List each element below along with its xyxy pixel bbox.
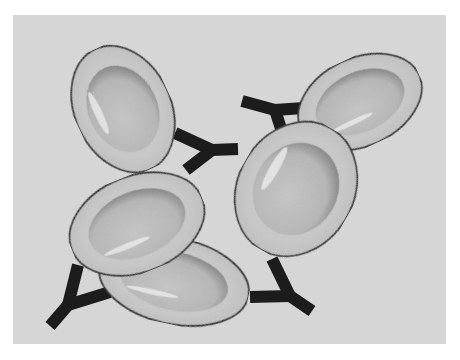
agglutination-illustration (0, 0, 460, 360)
antibody-arm2 (250, 296, 290, 297)
cell-top-left-red-blood-cell (52, 29, 195, 189)
cell-layer (52, 29, 438, 339)
antibody-top-center-icon (175, 133, 238, 170)
antibody-bottom-right-icon (250, 259, 312, 311)
